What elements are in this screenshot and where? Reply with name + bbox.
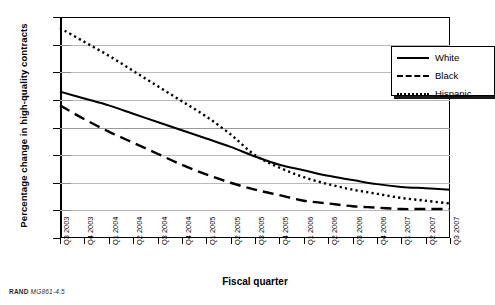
legend-item-hispanic: Hispanic [397,86,494,101]
y-axis-tick [53,238,60,239]
legend-item-black: Black [397,68,494,83]
y-axis-tick [53,183,60,184]
x-axis-tick [377,238,378,244]
legend-swatch-dotted-icon [397,89,429,99]
y-axis-tick [53,45,60,46]
y-axis-tick [53,128,60,129]
x-axis-tick [255,238,256,244]
x-axis-tick [426,238,427,244]
caption-prefix: RAND [9,288,29,295]
plot-area: Q3 2003Q4 2003Q1 2004Q2 2004Q3 2004Q4 20… [60,17,450,238]
legend-item-white: White [397,50,494,65]
y-axis-tick [53,100,60,101]
legend-label: Hispanic [435,88,471,99]
y-axis-title: Percentage change in high-quality contra… [18,11,29,241]
x-axis-tick [182,238,183,244]
series-line-white [60,92,450,190]
x-axis-tick [231,238,232,244]
figure-caption: RAND MG861-4.5 [9,288,65,295]
legend: White Black Hispanic [391,46,495,96]
y-axis-tick [53,17,60,18]
x-axis-label: Q3 2007 [453,217,461,245]
legend-swatch-dashed-icon [397,71,429,81]
x-axis-tick [304,238,305,244]
y-axis-tick [53,155,60,156]
x-axis-title: Fiscal quarter [60,276,450,287]
legend-label: White [435,52,459,63]
x-axis-tick [353,238,354,244]
y-axis-tick [53,210,60,211]
x-axis-tick [328,238,329,244]
y-axis-tick [53,72,60,73]
x-axis-tick [158,238,159,244]
legend-label: Black [435,70,458,81]
x-axis-tick [450,238,451,244]
x-axis-tick [133,238,134,244]
x-axis-tick [109,238,110,244]
legend-swatch-line-icon [397,53,429,63]
caption-id: MG861-4.5 [31,288,65,295]
x-axis-tick [60,238,61,244]
